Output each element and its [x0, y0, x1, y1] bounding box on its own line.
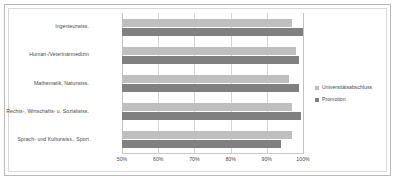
- category-label: Sprach- und Kulturwiss., Sport: [17, 137, 89, 142]
- x-tick-label: 50%: [117, 157, 127, 162]
- bar-group: [122, 131, 303, 148]
- category-label: Ingenieurwiss.: [55, 24, 89, 29]
- legend-label: Universitätsabschluss: [322, 85, 372, 90]
- bar: [122, 131, 292, 139]
- bar: [122, 112, 301, 120]
- legend-swatch-icon: [315, 86, 319, 90]
- x-tick-label: 60%: [153, 157, 163, 162]
- bar: [122, 28, 303, 36]
- bar-group: [122, 47, 303, 64]
- category-label: Human-/Veterinärmedizin: [29, 52, 89, 57]
- gridline: [303, 13, 304, 154]
- bar: [122, 19, 292, 27]
- x-tick-label: 80%: [225, 157, 235, 162]
- bar-group: [122, 75, 303, 92]
- x-axis-baseline: [122, 153, 303, 154]
- bar: [122, 84, 299, 92]
- x-tick-label: 70%: [189, 157, 199, 162]
- bar: [122, 47, 296, 55]
- bar: [122, 140, 281, 148]
- bar: [122, 103, 292, 111]
- legend-item: Universitätsabschluss: [315, 85, 372, 90]
- bar-group: [122, 103, 303, 120]
- bar-group: [122, 19, 303, 36]
- x-tick-label: 90%: [262, 157, 272, 162]
- chart-screenshot: Ingenieurwiss.Human-/VeterinärmedizinMat…: [0, 0, 395, 180]
- bar: [122, 75, 289, 83]
- x-tick-label: 100%: [296, 157, 309, 162]
- legend-item: Promotion: [315, 97, 372, 102]
- legend-label: Promotion: [322, 97, 346, 102]
- legend-swatch-icon: [315, 98, 319, 102]
- category-label: Rechts-, Wirtschafts- u. Sozialwiss.: [6, 109, 89, 114]
- category-label: Mathematik, Naturwiss.: [34, 81, 89, 86]
- bar: [122, 56, 299, 64]
- chart-area: Ingenieurwiss.Human-/VeterinärmedizinMat…: [9, 9, 386, 171]
- plot-area: [122, 13, 303, 154]
- legend: Universitätsabschluss Promotion: [315, 85, 372, 102]
